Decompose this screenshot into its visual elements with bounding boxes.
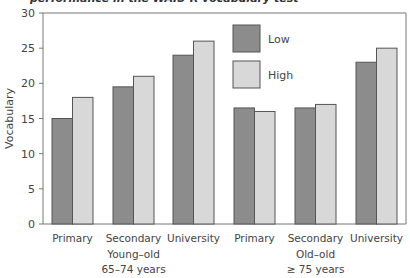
bar-high: [255, 111, 276, 224]
bar-high: [316, 104, 337, 224]
bar-low: [356, 62, 377, 224]
bar-low: [113, 87, 134, 224]
legend-swatch-low: [233, 25, 260, 52]
y-tick-label: 30: [21, 7, 35, 20]
bar-high: [134, 76, 155, 224]
bar-high: [194, 41, 215, 224]
y-axis-label: Vocabulary: [3, 88, 16, 149]
x-tick-label: Secondary: [106, 232, 162, 244]
y-tick-label: 10: [21, 148, 35, 161]
bar-chart: 051015202530Vocabulary LowHigh PrimarySe…: [0, 0, 410, 278]
x-tick-label: Primary: [52, 232, 93, 244]
x-axis-labels: PrimarySecondaryUniversityPrimarySeconda…: [52, 232, 403, 275]
group-label-line1: Young–old: [106, 248, 160, 260]
x-tick-label: University: [167, 232, 220, 244]
group-label-line1: Old–old: [296, 248, 335, 260]
y-tick-label: 20: [21, 77, 35, 90]
group-label-line2: 65–74 years: [101, 263, 165, 275]
legend-swatch-high: [233, 61, 260, 88]
legend-label-high: High: [268, 69, 293, 82]
bar-low: [173, 55, 194, 224]
bars: [52, 41, 397, 224]
bar-low: [234, 108, 255, 224]
group-label-line2: ≥ 75 years: [287, 263, 345, 275]
y-tick-label: 25: [21, 42, 35, 55]
x-tick-label: Primary: [234, 232, 275, 244]
bar-low: [52, 119, 73, 225]
legend-label-low: Low: [268, 33, 290, 46]
x-tick-label: University: [350, 232, 403, 244]
bar-high: [377, 48, 398, 224]
bar-low: [295, 108, 316, 224]
x-tick-label: Secondary: [288, 232, 344, 244]
y-tick-label: 5: [28, 183, 35, 196]
y-tick-label: 0: [28, 218, 35, 231]
legend: LowHigh: [233, 25, 293, 88]
bar-high: [73, 97, 94, 224]
y-tick-label: 15: [21, 113, 35, 126]
